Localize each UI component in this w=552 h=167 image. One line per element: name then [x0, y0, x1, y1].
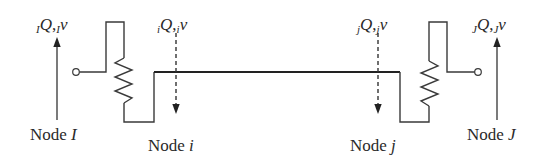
node-label-i: Node i: [148, 136, 194, 155]
arrow-node-J: [493, 37, 500, 120]
node-label-J: Node J: [467, 125, 517, 144]
arrowhead-up-J-icon: [493, 37, 500, 47]
force-label-j: jQ,jv: [355, 15, 388, 35]
left-spring-assembly: [73, 22, 154, 122]
right-spring-assembly: [400, 22, 481, 122]
arrowhead-up-I-icon: [53, 37, 60, 47]
arrowhead-down-i-icon: [172, 104, 179, 114]
element-diagram: IQ,Iv iQ,iv jQ,jv JQ,Jv Node I Node i No…: [0, 0, 552, 167]
node-label-j: Node j: [350, 136, 396, 155]
terminal-node-J-icon: [475, 69, 482, 76]
force-label-J: JQ,Jv: [472, 15, 506, 35]
arrow-node-j: [374, 33, 381, 114]
arrowhead-down-j-icon: [374, 104, 381, 114]
right-link-wire: [400, 72, 429, 122]
force-label-i: iQ,iv: [157, 15, 188, 35]
left-spring-icon: [115, 58, 132, 103]
terminal-node-I-icon: [73, 69, 80, 76]
right-spring-icon: [421, 61, 438, 106]
arrow-node-I: [53, 37, 60, 120]
arrow-node-i: [172, 33, 179, 114]
node-label-I: Node I: [30, 125, 78, 144]
force-label-I: IQ,Iv: [35, 15, 68, 35]
